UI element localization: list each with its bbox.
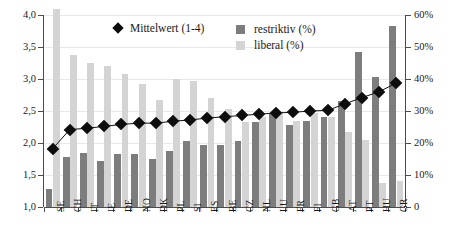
x-axis-label-AT: AT (349, 200, 359, 212)
liberal-swatch-icon (236, 41, 245, 50)
y-tick-right (406, 143, 411, 144)
x-axis-label-GR: GR (400, 198, 410, 212)
y-tick-right (406, 175, 411, 176)
y-tick-label-right: 60% (414, 10, 454, 20)
x-axis-label-ES: ES (211, 201, 221, 213)
y-tick-left (38, 207, 43, 208)
y-tick-right (406, 15, 411, 16)
y-tick-left (38, 175, 43, 176)
y-tick-label-left: 3,5 (2, 42, 36, 52)
diamond-marker-icon (112, 22, 123, 33)
x-axis-label-FR: FR (297, 200, 307, 212)
x-axis-label-DK: DK (160, 198, 170, 212)
y-tick-left (38, 15, 43, 16)
x-axis-label-FI: FI (314, 203, 324, 212)
y-tick-label-left: 2,5 (2, 106, 36, 116)
x-axis-label-HU: HU (383, 198, 393, 212)
x-axis-label-NO: NO (143, 198, 153, 212)
y-tick-left (38, 111, 43, 112)
y-tick-right (406, 47, 411, 48)
y-tick-label-right: 50% (414, 42, 454, 52)
x-axis-label-LU: LU (280, 199, 290, 212)
y-tick-label-right: 40% (414, 74, 454, 84)
y-tick-label-left: 2,0 (2, 138, 36, 148)
y-tick-label-left: 1,5 (2, 170, 36, 180)
y-tick-left (38, 79, 43, 80)
legend-restriktiv-label: restriktiv (%) (254, 23, 316, 35)
y-tick-label-right: 30% (414, 106, 454, 116)
restriktiv-swatch-icon (236, 25, 245, 34)
y-tick-right (406, 79, 411, 80)
x-axis-label-PL: PL (177, 201, 187, 213)
y-tick-left (38, 143, 43, 144)
y-tick-right (406, 111, 411, 112)
y-tick-label-left: 3,0 (2, 74, 36, 84)
x-axis-label-PT: PT (366, 201, 376, 213)
x-axis-label-NL: NL (263, 199, 273, 212)
legend-mittelwert: Mittelwert (1-4) (114, 22, 204, 34)
x-axis-label-CH: CH (74, 198, 84, 212)
x-axis-label-DE: DE (125, 199, 135, 212)
legend-item-liberal: liberal (%) (236, 37, 316, 53)
x-axis-label-SI: SI (194, 203, 204, 212)
y-tick-label-left: 1,0 (2, 202, 36, 212)
x-axis-label-BE: BE (229, 199, 239, 212)
legend-mittelwert-label: Mittelwert (1-4) (130, 22, 204, 34)
x-axis-label-SE: SE (57, 201, 67, 213)
legend-liberal-label: liberal (%) (254, 39, 304, 51)
y-axis-left (43, 15, 44, 207)
x-axis-label-GB: GB (332, 198, 342, 212)
y-tick-label-left: 4,0 (2, 10, 36, 20)
plot-area (44, 15, 405, 207)
x-axis-label-CZ: CZ (246, 199, 256, 212)
legend-item-restriktiv: restriktiv (%) (236, 21, 316, 37)
legend-bars: restriktiv (%) liberal (%) (236, 21, 316, 53)
x-axis-label-IT: IT (91, 203, 101, 212)
x-tick (44, 208, 45, 212)
y-tick-label-right: 0 (414, 202, 454, 212)
y-tick-label-right: 20% (414, 138, 454, 148)
y-tick-left (38, 47, 43, 48)
chart-container: 1,01,52,02,53,03,54,0 010%20%30%40%50%60… (0, 0, 457, 244)
x-axis-label-IE: IE (108, 203, 118, 212)
y-tick-label-right: 10% (414, 170, 454, 180)
